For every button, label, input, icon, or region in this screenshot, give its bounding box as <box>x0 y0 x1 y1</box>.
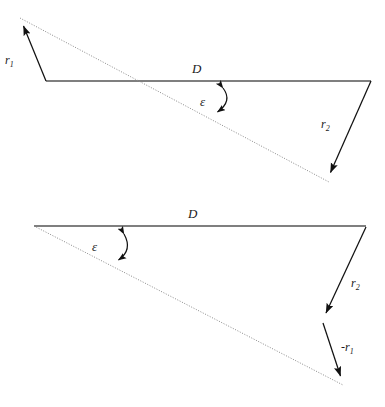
upper-vector-r2 <box>331 81 372 173</box>
lower-label-minus-r1-subscript: 1 <box>350 347 354 356</box>
upper-dotted-sightline <box>20 18 329 182</box>
figure-root: D ε r1 r2 D ε r2 -r1 <box>0 0 385 407</box>
upper-vector-r1 <box>24 26 47 81</box>
lower-diagram-group <box>34 226 366 385</box>
lower-label-epsilon: ε <box>92 240 97 253</box>
lower-label-r2-subscript: 2 <box>356 283 360 292</box>
lower-dotted-sightline <box>34 226 343 385</box>
lower-label-minus-r1: -r1 <box>341 341 354 356</box>
upper-diagram-group <box>20 18 371 182</box>
upper-label-epsilon: ε <box>200 95 205 108</box>
lower-label-r2: r2 <box>351 277 360 292</box>
upper-label-r2: r2 <box>321 118 330 133</box>
lower-label-D: D <box>188 207 197 220</box>
upper-label-r1: r1 <box>5 54 14 69</box>
upper-label-r2-subscript: 2 <box>326 124 330 133</box>
lower-angle-arc-epsilon <box>119 234 128 260</box>
lower-vector-minus-r1 <box>323 323 341 376</box>
upper-label-D: D <box>192 62 201 75</box>
lower-vector-r2 <box>326 227 366 313</box>
upper-label-r1-subscript: 1 <box>10 60 14 69</box>
upper-angle-arc-epsilon <box>218 88 227 112</box>
